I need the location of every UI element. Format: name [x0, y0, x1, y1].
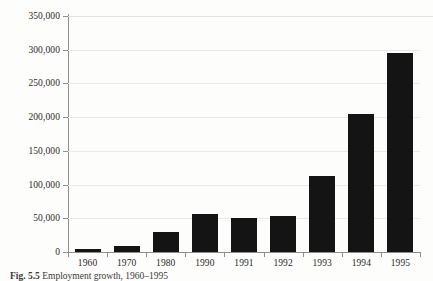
x-axis-tick	[224, 252, 225, 257]
caption-text: Employment growth, 1960–1995	[42, 271, 168, 281]
x-axis-tick	[185, 252, 186, 257]
y-axis-label: 200,000	[28, 112, 60, 122]
gridline	[68, 16, 433, 17]
bar	[270, 216, 296, 252]
x-axis-label: 1991	[234, 258, 253, 268]
bar	[114, 246, 140, 252]
y-axis-label: 150,000	[28, 146, 60, 156]
x-axis-label: 1970	[117, 258, 136, 268]
bar	[231, 218, 257, 252]
x-axis-tick	[146, 252, 147, 257]
y-axis-tick	[63, 50, 68, 51]
y-axis-tick	[63, 185, 68, 186]
figure-container: 050,000100,000150,000200,000250,000300,0…	[0, 0, 433, 281]
y-axis-label: 50,000	[33, 213, 60, 223]
y-axis-label: 0	[55, 247, 60, 257]
y-axis-label: 300,000	[28, 45, 60, 55]
x-axis-tick	[68, 252, 69, 257]
gridline	[68, 50, 420, 51]
x-axis-tick	[264, 252, 265, 257]
y-axis-label: 250,000	[28, 78, 60, 88]
x-axis-label: 1980	[156, 258, 175, 268]
x-axis-tick	[420, 252, 421, 257]
figure-caption: Fig. 5.5 Employment growth, 1960–1995	[10, 271, 430, 281]
bar	[153, 232, 179, 252]
gridline	[68, 83, 420, 84]
y-axis-tick	[63, 218, 68, 219]
y-axis-tick	[63, 16, 68, 17]
x-axis-label: 1994	[352, 258, 371, 268]
y-axis-tick	[63, 83, 68, 84]
x-axis-label: 1995	[391, 258, 410, 268]
bar	[348, 114, 374, 252]
x-axis-tick	[303, 252, 304, 257]
caption-label: Fig. 5.5	[10, 271, 40, 281]
bar	[309, 176, 335, 252]
x-axis-tick	[342, 252, 343, 257]
y-axis-tick	[63, 151, 68, 152]
y-axis-label: 100,000	[28, 180, 60, 190]
x-axis-tick	[381, 252, 382, 257]
x-axis-line	[68, 252, 421, 253]
y-axis-label: 350,000	[28, 11, 60, 21]
bar	[387, 53, 413, 252]
x-axis-label: 1960	[78, 258, 97, 268]
bar	[192, 214, 218, 252]
x-axis-label: 1993	[313, 258, 332, 268]
plot-area: 050,000100,000150,000200,000250,000300,0…	[68, 16, 420, 252]
bar	[75, 249, 101, 252]
x-axis-label: 1990	[195, 258, 214, 268]
x-axis-tick	[107, 252, 108, 257]
x-axis-label: 1992	[273, 258, 292, 268]
y-axis-tick	[63, 117, 68, 118]
